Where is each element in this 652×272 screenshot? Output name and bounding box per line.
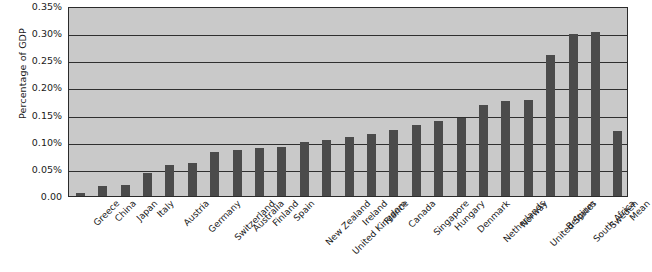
- y-axis-tick-label: 0.00: [41, 192, 62, 202]
- y-axis-tick-labels: 0.000.05%0.10%0.15%0.20%0.25%0.30%0.35%: [0, 0, 66, 205]
- bar: [76, 193, 85, 196]
- x-axis-tick-labels: GreeceChinaJapanItalyAustriaGermanySwitz…: [68, 199, 628, 272]
- plot-area: [68, 7, 628, 197]
- bar: [546, 55, 555, 196]
- bar: [143, 173, 152, 196]
- y-axis-tick-label: 0.20%: [32, 84, 62, 94]
- bar: [412, 125, 421, 196]
- bar: [322, 140, 331, 196]
- bar: [434, 121, 443, 196]
- bar: [210, 152, 219, 197]
- bar: [591, 32, 600, 196]
- bar: [457, 118, 466, 196]
- y-axis-tick-label: 0.30%: [32, 29, 62, 39]
- bar: [300, 142, 309, 196]
- x-axis-tick-label: Italy: [156, 199, 176, 219]
- y-axis-tick-label: 0.25%: [32, 57, 62, 67]
- bar: [121, 185, 130, 196]
- bar: [367, 134, 376, 196]
- bar: [255, 148, 264, 196]
- bar: [501, 101, 510, 196]
- bar: [98, 186, 107, 196]
- y-axis-tick-label: 0.10%: [32, 138, 62, 148]
- x-axis-tick-label: Belgium: [564, 199, 596, 231]
- bar: [345, 137, 354, 196]
- bar: [277, 147, 286, 196]
- bar: [188, 163, 197, 196]
- bar: [613, 131, 622, 196]
- bar: [389, 130, 398, 196]
- bar: [165, 165, 174, 196]
- y-axis-tick-label: 0.15%: [32, 111, 62, 121]
- bar: [233, 150, 242, 196]
- bar: [479, 105, 488, 196]
- bars-container: [69, 8, 627, 196]
- bar: [569, 34, 578, 196]
- x-axis-tick-label: Canada: [407, 199, 438, 230]
- y-axis-tick-label: 0.35%: [32, 2, 62, 12]
- y-axis-tick-label: 0.05%: [32, 165, 62, 175]
- bar: [524, 100, 533, 196]
- x-axis-tick-label: Austria: [182, 199, 211, 228]
